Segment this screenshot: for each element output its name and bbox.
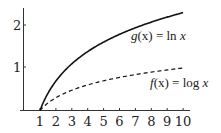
x-ticks: 12345678910: [36, 108, 192, 129]
x-tick-label: 2: [52, 114, 60, 129]
x-tick-label: 5: [99, 114, 107, 129]
log-chart: 2 1 12345678910 g(x) = ln x f(x) = log x: [0, 0, 221, 133]
ln-label: g(x) = ln x: [131, 28, 186, 43]
x-tick-label: 10: [175, 114, 192, 129]
x-tick-label: 6: [115, 114, 123, 129]
log-label: f(x) = log x: [150, 75, 209, 90]
x-tick-label: 1: [36, 114, 44, 129]
x-tick-label: 4: [84, 114, 92, 129]
x-tick-label: 3: [68, 114, 76, 129]
x-tick-label: 8: [147, 114, 155, 129]
y-tick-label-2: 2: [13, 18, 21, 33]
x-tick-label: 9: [163, 114, 171, 129]
x-tick-label: 7: [131, 114, 139, 129]
y-tick-label-1: 1: [13, 60, 21, 75]
